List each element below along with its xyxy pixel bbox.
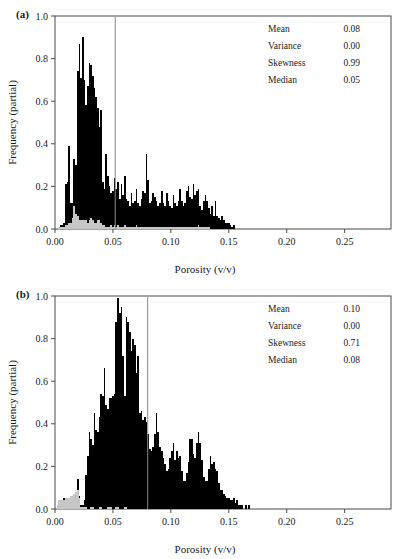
histogram-bar: [147, 227, 149, 229]
histogram-bar: [233, 498, 235, 509]
histogram-bar: [70, 223, 72, 229]
histogram-bar: [186, 191, 188, 229]
histogram-bar: [194, 227, 196, 229]
histogram-bar: [99, 220, 101, 229]
histogram-bar: [109, 507, 111, 509]
histogram-bar: [183, 227, 185, 229]
y-tick-label: 0.4: [36, 418, 49, 429]
histogram-bar: [97, 220, 99, 229]
histogram-bar: [194, 458, 196, 509]
histogram-bar: [107, 409, 109, 509]
histogram-bar: [126, 507, 128, 509]
histogram-bar: [223, 220, 225, 229]
histogram-bar: [82, 220, 84, 229]
histogram-bar: [159, 227, 161, 229]
histogram-bar: [225, 223, 227, 229]
histogram-bar: [84, 220, 86, 229]
histogram-bar: [68, 146, 70, 229]
histogram-bar: [199, 227, 201, 229]
histogram-bar: [154, 434, 156, 509]
histogram-bar: [139, 206, 141, 229]
histogram-bar: [68, 498, 70, 509]
histogram-bar: [225, 496, 227, 509]
histogram-bar: [194, 195, 196, 229]
histogram-bar: [136, 225, 138, 229]
histogram-bar: [157, 227, 159, 229]
histogram-bar: [179, 227, 181, 229]
stat-value-mean: 0.08: [343, 24, 360, 34]
histogram-bar: [189, 197, 191, 229]
stat-label-variance: Variance: [268, 41, 301, 51]
histogram-bar: [171, 208, 173, 229]
histogram-bar: [141, 199, 143, 229]
histogram-bar: [179, 456, 181, 509]
histogram-bar: [65, 498, 67, 509]
histogram-bar: [151, 227, 153, 229]
histogram-bar: [211, 464, 213, 509]
figure-porosity-histograms: (a) 0.00.20.40.60.81.00.000.050.100.150.…: [0, 0, 406, 559]
histogram-bar: [92, 445, 94, 509]
histogram-bar: [136, 373, 138, 509]
histogram-bar: [191, 227, 193, 229]
histogram-bar: [230, 225, 232, 229]
histogram-bar: [94, 413, 96, 509]
histogram-bar: [168, 469, 170, 509]
histogram-bar: [117, 298, 119, 509]
histogram-bar: [89, 220, 91, 229]
histogram-bar: [220, 490, 222, 509]
histogram-bar: [115, 507, 117, 509]
histogram-bar: [218, 218, 220, 229]
histogram-bar: [112, 227, 114, 229]
histogram-bar: [105, 227, 107, 229]
histogram-bar: [77, 490, 79, 509]
histogram-bar: [164, 464, 166, 509]
histogram-bar: [213, 462, 215, 509]
histogram-bar: [102, 182, 104, 229]
histogram-bar: [131, 351, 133, 509]
stat-value-variance: 0.00: [343, 41, 360, 51]
histogram-bar: [58, 227, 60, 229]
histogram-bar: [137, 203, 139, 229]
histogram-bar: [169, 227, 171, 229]
stat-label-skewness: Skewness: [268, 58, 306, 68]
histogram-bar: [97, 108, 99, 229]
histogram-bar: [208, 208, 210, 229]
histogram-bar: [203, 227, 205, 229]
histogram-bar: [134, 201, 136, 229]
histogram-bar: [193, 454, 195, 509]
y-axis-title: Frequency (partial): [6, 360, 19, 445]
histogram-bar: [191, 439, 193, 509]
histogram-bar: [196, 443, 198, 509]
histogram-bar: [196, 227, 198, 229]
histogram-bar: [157, 206, 159, 229]
histogram-bar: [65, 225, 67, 229]
histogram-bar: [203, 201, 205, 229]
histogram-bar: [112, 396, 114, 509]
histogram-bar: [216, 216, 218, 229]
histogram-bar: [174, 460, 176, 509]
histogram-bar: [196, 191, 198, 229]
histogram-bar: [85, 507, 87, 509]
histogram-bar: [82, 37, 84, 229]
x-tick-label: 0.15: [220, 236, 238, 247]
histogram-bar: [141, 411, 143, 509]
histogram-bar: [168, 227, 170, 229]
histogram-bar: [221, 216, 223, 229]
histogram-bar: [144, 417, 146, 509]
panel-a-plot: 0.00.20.40.60.81.00.000.050.100.150.200.…: [0, 0, 406, 279]
histogram-bar: [189, 227, 191, 229]
histogram-bar: [174, 203, 176, 229]
panel-b-label: (b): [16, 288, 29, 300]
histogram-bar: [107, 227, 109, 229]
histogram-bar: [149, 449, 151, 509]
histogram-bar: [79, 220, 81, 229]
histogram-bar: [154, 227, 156, 229]
histogram-bar: [129, 227, 131, 229]
histogram-bar: [107, 507, 109, 509]
histogram-bar: [198, 432, 200, 509]
histogram-bar: [99, 507, 101, 509]
histogram-bar: [198, 189, 200, 229]
histogram-bar: [127, 201, 129, 229]
histogram-bar: [122, 195, 124, 229]
histogram-bar: [201, 227, 203, 229]
